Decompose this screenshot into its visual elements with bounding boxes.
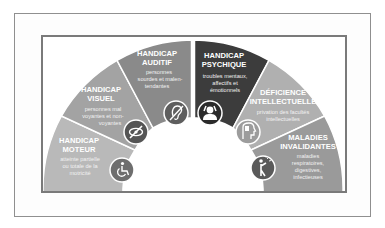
svg-text:respiratoires,: respiratoires, <box>292 160 325 166</box>
svg-text:personnes: personnes <box>146 69 172 75</box>
svg-text:VISUEL: VISUEL <box>87 94 115 103</box>
svg-text:privation des facultés: privation des facultés <box>257 109 310 115</box>
svg-text:MALADIES: MALADIES <box>288 133 328 142</box>
person-pain-icon <box>251 156 275 180</box>
disability-fan-chart: HANDICAP MOTEUR atteinte partielle ou to… <box>0 0 385 228</box>
svg-text:voyantes: voyantes <box>99 120 122 126</box>
head-hands-icon <box>198 101 222 125</box>
svg-text:DÉFICIENCE: DÉFICIENCE <box>260 88 306 97</box>
svg-text:maladies: maladies <box>297 153 320 159</box>
svg-text:affectifs et: affectifs et <box>212 80 238 86</box>
svg-text:HANDICAP: HANDICAP <box>204 51 244 60</box>
svg-text:intellectuelles: intellectuelles <box>266 116 300 122</box>
svg-text:INTELLECTUELLE: INTELLECTUELLE <box>250 97 317 106</box>
svg-text:MOTEUR: MOTEUR <box>63 145 96 154</box>
svg-text:HANDICAP: HANDICAP <box>137 49 177 58</box>
ear-crossed-icon <box>164 101 188 125</box>
svg-text:motricité: motricité <box>69 170 90 176</box>
svg-text:ou totale de la: ou totale de la <box>62 163 98 169</box>
svg-text:INVALIDANTES: INVALIDANTES <box>280 142 336 151</box>
svg-text:PSYCHIQUE: PSYCHIQUE <box>202 60 247 69</box>
head-profile-icon <box>236 120 260 144</box>
svg-text:tendantes: tendantes <box>145 83 170 89</box>
svg-text:digestives,: digestives, <box>295 167 322 173</box>
svg-text:voyantes et non-: voyantes et non- <box>82 113 123 119</box>
svg-text:atteinte partielle: atteinte partielle <box>60 156 100 162</box>
eye-crossed-icon <box>124 120 148 144</box>
svg-text:AUDITIF: AUDITIF <box>142 58 172 67</box>
svg-text:émotionnels: émotionnels <box>210 87 240 93</box>
svg-text:troubles mentaux,: troubles mentaux, <box>203 73 248 79</box>
svg-text:personnes mal: personnes mal <box>85 106 122 112</box>
svg-text:infectieuses: infectieuses <box>293 174 323 180</box>
svg-text:HANDICAP: HANDICAP <box>59 136 99 145</box>
svg-text:sourdes et malen-: sourdes et malen- <box>138 76 183 82</box>
svg-text:HANDICAP: HANDICAP <box>81 85 121 94</box>
wheelchair-icon <box>110 158 134 182</box>
